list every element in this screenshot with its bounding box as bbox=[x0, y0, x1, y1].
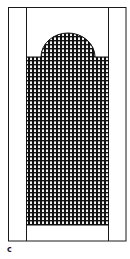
grid-panel bbox=[27, 33, 109, 225]
window-elevation-drawing bbox=[0, 0, 130, 259]
diagram-figure: c bbox=[0, 0, 130, 259]
figure-label: c bbox=[7, 245, 12, 255]
